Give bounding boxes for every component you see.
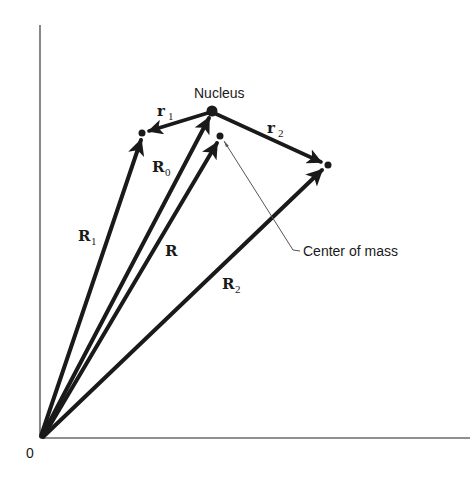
svg-text:0: 0 xyxy=(165,166,171,178)
label-R: R xyxy=(165,242,178,260)
svg-text:R: R xyxy=(152,158,165,176)
svg-text:R: R xyxy=(222,275,235,293)
svg-text:2: 2 xyxy=(278,127,284,139)
vector-R xyxy=(43,143,217,437)
label-r1: r 1 xyxy=(157,102,174,122)
svg-text:1: 1 xyxy=(91,235,97,247)
origin-label: 0 xyxy=(26,445,34,461)
label-r2: r 2 xyxy=(267,119,284,139)
vector-R0 xyxy=(42,118,209,436)
svg-text:2: 2 xyxy=(235,283,241,295)
nucleus-point xyxy=(207,106,218,117)
center-of-mass-leader-line xyxy=(224,141,300,251)
svg-text:1: 1 xyxy=(168,110,174,122)
svg-text:r: r xyxy=(267,119,276,137)
label-R1: R 1 xyxy=(78,227,97,247)
svg-text:R: R xyxy=(78,227,91,245)
svg-text:r: r xyxy=(157,102,166,120)
label-R0: R 0 xyxy=(152,158,171,178)
leader-arrowhead-icon xyxy=(224,141,229,147)
label-R2: R 2 xyxy=(222,275,241,295)
particle-2-point xyxy=(325,162,332,169)
nucleus-label: Nucleus xyxy=(194,85,245,101)
vector-diagram: Nucleus Center of mass 0 r 1 r 2 R 0 R R… xyxy=(0,0,470,477)
center-of-mass-point xyxy=(217,133,224,140)
svg-text:R: R xyxy=(165,242,178,260)
center-of-mass-label: Center of mass xyxy=(303,243,398,259)
particle-1-point xyxy=(139,130,146,137)
